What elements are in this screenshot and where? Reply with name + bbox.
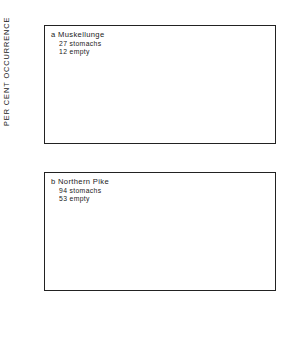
panel-a-empty: 12 empty — [59, 48, 90, 55]
panel-b-title: b Northern Pike — [51, 177, 109, 186]
figure-panel-chart: PER CENT OCCURRENCE a Muskellunge 27 sto… — [0, 0, 283, 360]
y-axis-title: PER CENT OCCURRENCE — [2, 112, 11, 126]
panel-a-stomachs: 27 stomachs — [59, 40, 101, 47]
panel-b-stomachs: 94 stomachs — [59, 187, 101, 194]
panel-muskellunge: a Muskellunge 27 stomachs 12 empty — [44, 25, 276, 144]
panel-northern-pike: b Northern Pike 94 stomachs 53 empty — [44, 172, 276, 291]
panel-a-title: a Muskellunge — [51, 30, 105, 39]
panel-b-empty: 53 empty — [59, 195, 90, 202]
